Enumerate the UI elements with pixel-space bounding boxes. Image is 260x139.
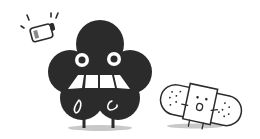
illustration-canvas	[0, 0, 260, 139]
cloud-shadow	[68, 125, 132, 131]
bandage-shadow	[167, 124, 223, 129]
illustration	[0, 0, 260, 139]
low-battery-icon	[21, 13, 58, 42]
cloud-character	[48, 20, 152, 128]
